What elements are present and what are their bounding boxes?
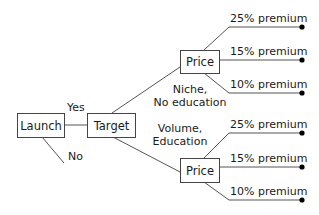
volume-label: Volume, Education xyxy=(144,122,216,148)
endpoint-dot xyxy=(299,164,304,169)
no-label: No xyxy=(68,150,83,163)
niche-line2: No education xyxy=(150,96,230,109)
price-node-upper: Price xyxy=(180,50,220,74)
yes-label: Yes xyxy=(67,101,85,114)
niche-line1: Niche, xyxy=(150,83,230,96)
lower-option-25: 25% premium xyxy=(230,118,307,131)
volume-line1: Volume, xyxy=(144,122,216,135)
launch-label: Launch xyxy=(20,119,62,133)
volume-line2: Education xyxy=(144,135,216,148)
launch-node: Launch xyxy=(17,113,65,138)
price-label: Price xyxy=(186,55,214,69)
lower-option-15: 15% premium xyxy=(230,152,307,165)
no-edge xyxy=(42,137,64,163)
endpoint-dot xyxy=(299,130,304,135)
price-node-lower: Price xyxy=(180,158,220,183)
price-label: Price xyxy=(186,164,214,178)
upper-option-25: 25% premium xyxy=(230,12,307,25)
upper-option-15: 15% premium xyxy=(230,45,307,58)
endpoint-dot xyxy=(299,197,304,202)
target-node: Target xyxy=(87,113,136,138)
target-label: Target xyxy=(94,119,130,133)
upper-option-10: 10% premium xyxy=(230,78,307,91)
endpoint-dot xyxy=(299,90,304,95)
niche-label: Niche, No education xyxy=(150,83,230,109)
endpoint-dot xyxy=(299,57,304,62)
lower-option-10: 10% premium xyxy=(230,185,307,198)
endpoint-dot xyxy=(299,24,304,29)
